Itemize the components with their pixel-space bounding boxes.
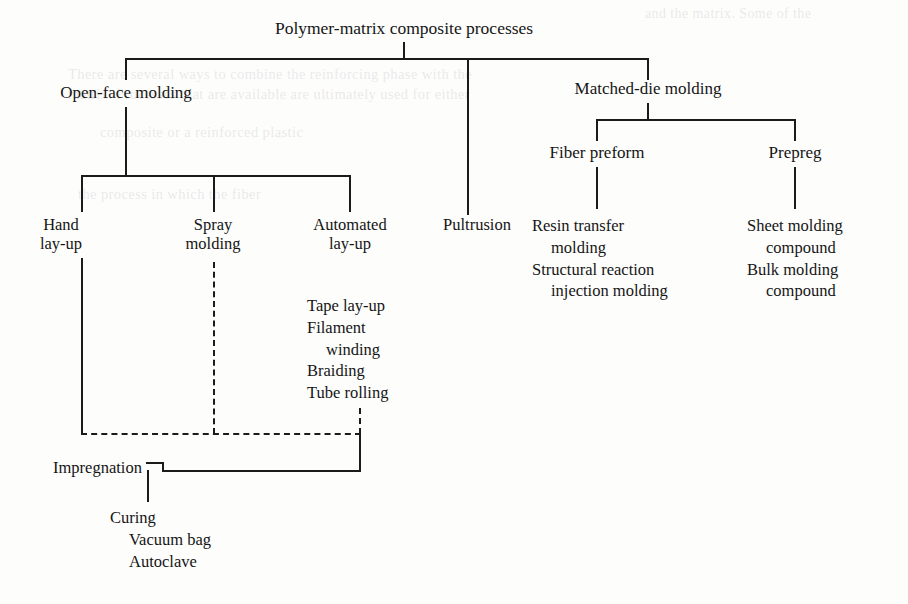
node-hand-layup-line1: Hand [43,215,79,234]
connector-automated-layup-to-impregnation-dashed [359,408,361,434]
connector-drop-hand-layup [81,175,83,212]
node-hand-layup-line2: lay-up [40,234,82,253]
connector-open-face-stem [125,107,127,175]
list-item-curing: Curing [110,507,211,529]
list-item-braiding: Braiding [307,360,388,382]
connector-drop-fiber-preform [596,119,598,141]
diagram-title: Polymer-matrix composite processes [275,18,533,39]
connector-fiber-preform-stem [596,167,598,209]
list-item-tube-rolling: Tube rolling [307,382,388,404]
connector-spray-molding-to-impregnation-dashed [213,262,215,434]
connector-drop-spray-molding [213,175,215,212]
connector-matched-die-stem [647,103,649,120]
diagram-canvas: and the matrix. Some of the There are se… [0,0,908,604]
list-prepreg-processes: Sheet molding compound Bulk molding comp… [747,215,843,302]
connector-drop-prepreg [794,119,796,141]
connector-impregnation-to-right-riser [162,470,360,472]
connector-root-drop-right [647,58,649,80]
list-item-bulk-molding-compound-line2: compound [747,280,843,302]
list-item-resin-transfer-molding-line1: Resin transfer [532,215,668,237]
list-item-autoclave: Autoclave [110,551,211,573]
ghost-text-line-5: the process in which the fiber [78,186,261,203]
list-fiber-preform-processes: Resin transfer molding Structural reacti… [532,215,668,302]
node-prepreg: Prepreg [769,143,822,163]
node-spray-molding-line1: Spray [194,215,233,234]
connector-root-stem [403,42,405,59]
list-item-structural-reaction-injection-molding-line2: injection molding [532,280,668,302]
connector-matched-die-bus [596,119,796,121]
list-item-structural-reaction-injection-molding-line1: Structural reaction [532,259,668,281]
connector-right-riser [359,434,361,472]
node-impregnation: Impregnation [53,458,142,477]
node-spray-molding-line2: molding [185,234,240,253]
connector-hand-layup-to-impregnation [81,258,83,434]
node-pultrusion: Pultrusion [443,215,511,234]
list-item-sheet-molding-compound-line2: compound [747,237,843,259]
node-matched-die-molding: Matched-die molding [575,79,722,99]
connector-root-drop-left [125,58,127,80]
node-fiber-preform: Fiber preform [550,143,645,163]
list-item-bulk-molding-compound-line1: Bulk molding [747,259,843,281]
list-item-sheet-molding-compound-line1: Sheet molding [747,215,843,237]
node-open-face-molding: Open-face molding [60,83,192,103]
ghost-text-line-2: There are several ways to combine the re… [68,66,472,83]
list-curing-processes: Curing Vacuum bag Autoclave [110,507,211,572]
connector-root-bus [125,58,649,60]
ghost-text-line-4: composite or a reinforced plastic [100,124,303,141]
connector-impregnation-to-curing [147,470,149,502]
connector-prepreg-stem [794,167,796,209]
connector-root-drop-middle [467,58,469,215]
list-item-tape-layup: Tape lay-up [307,295,388,317]
connector-impregnation-corner [147,462,149,464]
connector-impregnation-collector-dashed [81,433,361,435]
node-automated-layup-line1: Automated [313,215,386,234]
node-spray-molding: Spray molding [185,215,240,254]
list-automated-layup-processes: Tape lay-up Filament winding Braiding Tu… [307,295,388,404]
list-item-filament-winding-line2: winding [307,339,388,361]
node-automated-layup: Automated lay-up [313,215,386,254]
node-automated-layup-line2: lay-up [329,234,371,253]
node-hand-layup: Hand lay-up [40,215,82,254]
connector-drop-automated-layup [349,175,351,212]
list-item-resin-transfer-molding-line2: molding [532,237,668,259]
list-item-vacuum-bag: Vacuum bag [110,529,211,551]
ghost-text-line-1: and the matrix. Some of the [645,6,811,22]
connector-open-face-bus [81,175,351,177]
list-item-filament-winding-line1: Filament [307,317,388,339]
